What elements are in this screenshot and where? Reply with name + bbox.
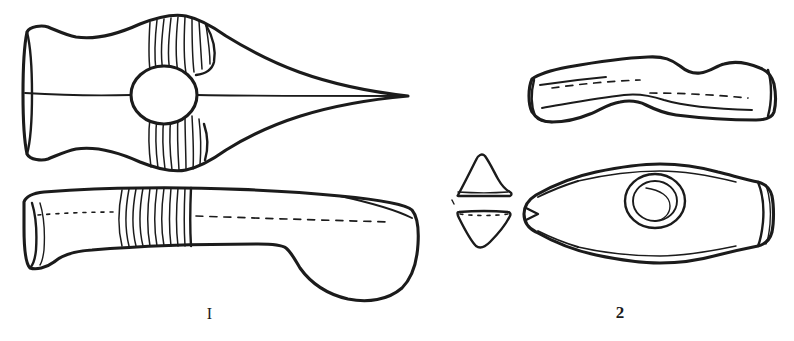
figure-1-plan-median-right — [197, 95, 406, 96]
figure-2-profile-view — [529, 57, 776, 122]
figure-1-profile-outline — [24, 188, 418, 301]
figure-2-caption: 2 — [570, 303, 670, 323]
figure-2-shaft-hole-inner-ring — [633, 181, 677, 221]
figure-1-plan-outline — [23, 15, 408, 170]
figure-2-profile-outline — [529, 57, 776, 122]
illustration-plate: I 2 — [0, 0, 794, 341]
figure-1-caption: I — [160, 305, 260, 323]
figure-2-section-lower — [458, 211, 511, 247]
figure-1-profile-band-edge — [190, 188, 191, 246]
line-drawing-canvas — [0, 0, 794, 341]
figure-1-profile-view — [24, 188, 418, 301]
figure-2-section-upper — [458, 155, 512, 196]
figure-2-plan-view — [524, 164, 774, 263]
figure-1-plan-view — [23, 15, 408, 170]
figure-1-shaft-hole — [131, 66, 197, 124]
figure-2-section-divider-dash — [452, 200, 454, 204]
figure-2-cross-sections — [452, 155, 512, 248]
